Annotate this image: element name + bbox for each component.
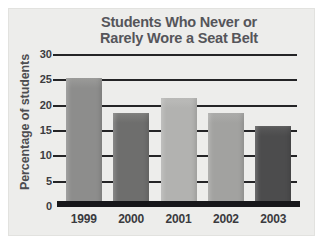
y-axis-tick-mark — [53, 54, 60, 56]
y-axis-tick-label: 30 — [26, 48, 52, 60]
y-axis-tick-mark — [53, 79, 60, 81]
x-axis-tick-label: 2000 — [107, 212, 155, 226]
y-axis-tick-label: 10 — [26, 149, 52, 161]
x-axis-tick-label: 2001 — [155, 212, 203, 226]
chart-title: Students Who Never or Rarely Wore a Seat… — [58, 14, 300, 46]
y-axis-tick-label: 0 — [26, 200, 52, 212]
x-axis-tick-label: 2003 — [249, 212, 297, 226]
y-axis-tick-label: 5 — [26, 175, 52, 187]
plot-area — [60, 55, 297, 207]
x-axis-line — [57, 201, 300, 207]
gridline — [60, 54, 297, 56]
y-axis-tick-mark — [53, 181, 60, 183]
y-axis-tick-labels: 302520151050 — [26, 55, 52, 207]
bar — [161, 98, 197, 207]
y-axis-tick-label: 20 — [26, 99, 52, 111]
y-axis-tick-label: 15 — [26, 124, 52, 136]
y-axis-tick-mark — [53, 155, 60, 157]
x-axis-tick-label: 2002 — [202, 212, 250, 226]
bar — [66, 78, 102, 207]
bar — [208, 113, 244, 207]
x-axis-tick-label: 1999 — [60, 212, 108, 226]
chart-figure: Students Who Never or Rarely Wore a Seat… — [0, 0, 325, 246]
y-axis-tick-mark — [53, 130, 60, 132]
y-axis-tick-mark — [53, 105, 60, 107]
y-axis-tick-label: 25 — [26, 73, 52, 85]
bar — [113, 113, 149, 207]
bar — [255, 126, 291, 207]
